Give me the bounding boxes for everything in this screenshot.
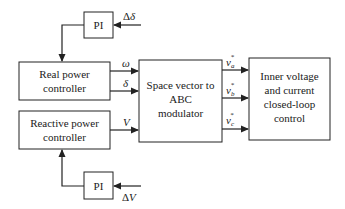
block-diagram: PI Δδ Real power controller ω δ Reactive…	[0, 0, 345, 209]
inner-line-2: and current	[265, 84, 315, 96]
va-label: va*	[226, 53, 235, 70]
inner-control-block: Inner voltage and current closed-loop co…	[249, 58, 330, 140]
pi-block-bottom: PI	[84, 172, 113, 199]
delta-label: δ	[123, 77, 129, 89]
vc-label: vc*	[226, 111, 235, 128]
pi-block-top: PI	[84, 12, 113, 38]
modulator-line-1: Space vector to	[147, 79, 215, 91]
pi-bottom-label: PI	[94, 180, 104, 192]
space-vector-modulator-block: Space vector to ABC modulator	[139, 60, 222, 142]
modulator-line-3: modulator	[158, 107, 204, 119]
v-label: V	[123, 116, 131, 128]
pi-top-label: PI	[94, 19, 104, 31]
delta-v-label: ΔV	[122, 191, 137, 203]
real-power-line-2: controller	[43, 82, 86, 94]
inner-line-4: control	[274, 112, 305, 124]
omega-label: ω	[122, 57, 130, 69]
reactive-power-controller-block: Reactive power controller	[19, 111, 110, 149]
real-power-controller-block: Real power controller	[19, 62, 110, 100]
pi-bottom-to-reactive-power-arrow	[62, 150, 84, 186]
vb-label: vb*	[226, 81, 235, 98]
reactive-power-line-1: Reactive power	[30, 117, 99, 129]
inner-line-1: Inner voltage	[260, 70, 318, 82]
inner-line-3: closed-loop	[264, 98, 316, 110]
pi-top-to-real-power-arrow	[62, 25, 84, 61]
delta-delta-label: Δδ	[123, 10, 136, 22]
reactive-power-line-2: controller	[43, 131, 86, 143]
modulator-line-2: ABC	[169, 93, 192, 105]
real-power-line-1: Real power	[39, 68, 90, 80]
